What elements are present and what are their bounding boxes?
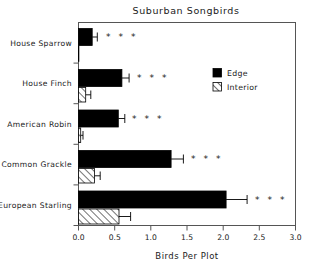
legend-label-interior: Interior	[227, 83, 258, 92]
significance-marker-american-robin: * * *	[132, 114, 164, 124]
errorbar-edge-house-sparrow	[92, 33, 97, 42]
significance-marker-house-sparrow: * * *	[106, 32, 138, 42]
bar-edge-common-grackle	[79, 151, 172, 168]
bar-edge-house-sparrow	[79, 29, 93, 46]
bar-edge-house-finch	[79, 70, 122, 87]
bar-interior-american-robin	[79, 128, 81, 143]
errorbar-edge-european-starling	[226, 195, 247, 204]
x-tick-label-6: 3.0	[289, 233, 301, 242]
bar-edge-european-starling	[79, 191, 227, 208]
errorbar-interior-house-finch	[86, 91, 91, 100]
chart-legend: Edge Interior	[213, 69, 258, 93]
errorbar-edge-american-robin	[118, 114, 125, 123]
category-label-house-finch: House Finch	[22, 79, 72, 88]
bar-group-house-sparrow: * * *	[79, 29, 139, 62]
significance-marker-european-starling: * * *	[255, 195, 287, 205]
legend-swatch-edge	[213, 69, 222, 78]
category-label-european-starling: European Starling	[0, 201, 72, 210]
category-label-common-grackle: Common Grackle	[1, 160, 72, 169]
bar-group-common-grackle: * * *	[79, 151, 224, 184]
bar-interior-european-starling	[79, 209, 120, 224]
category-label-american-robin: American Robin	[7, 120, 72, 129]
bar-group-european-starling: * * *	[79, 191, 288, 224]
chart-title: Suburban Songbirds	[133, 5, 240, 16]
x-tick-label-3: 1.5	[181, 233, 193, 242]
category-label-house-sparrow: House Sparrow	[10, 39, 72, 48]
x-axis-label: Birds Per Plot	[155, 251, 219, 261]
bar-group-house-finch: * * *	[79, 70, 170, 103]
errorbar-edge-house-finch	[122, 74, 129, 83]
suburban-songbirds-bar-chart: Suburban Songbirds 0.0 0.5 1.0 1.5 2.0 2…	[0, 0, 315, 272]
significance-marker-house-finch: * * *	[137, 73, 169, 83]
legend-swatch-interior	[213, 83, 222, 92]
legend-label-edge: Edge	[227, 69, 248, 78]
chart-container: Suburban Songbirds 0.0 0.5 1.0 1.5 2.0 2…	[0, 0, 315, 272]
bar-interior-house-finch	[79, 88, 86, 103]
bar-interior-common-grackle	[79, 169, 95, 184]
x-axis-tick-labels: 0.0 0.5 1.0 1.5 2.0 2.5 3.0	[72, 233, 301, 242]
y-axis-ticks	[74, 63, 79, 225]
errorbar-interior-common-grackle	[94, 172, 100, 181]
errorbar-interior-european-starling	[119, 212, 131, 221]
errorbar-edge-common-grackle	[171, 155, 183, 164]
x-tick-label-1: 0.5	[109, 233, 121, 242]
bar-edge-american-robin	[79, 110, 119, 127]
significance-marker-common-grackle: * * *	[191, 154, 223, 164]
x-tick-label-5: 2.5	[253, 233, 265, 242]
x-tick-label-4: 2.0	[217, 233, 229, 242]
x-axis-ticks	[79, 226, 296, 231]
x-tick-label-0: 0.0	[72, 233, 84, 242]
x-tick-label-2: 1.0	[145, 233, 157, 242]
y-axis-category-labels: House Sparrow House Finch American Robin…	[0, 39, 72, 210]
bar-group-american-robin: * * *	[79, 110, 165, 143]
